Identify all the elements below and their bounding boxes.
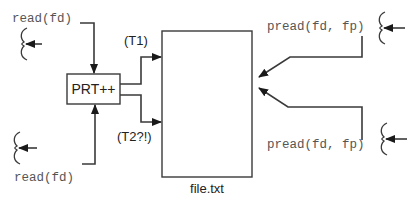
- t1-arrow: [120, 57, 161, 84]
- bottom-right-pread-call: pread(fd, fp): [259, 88, 407, 155]
- bottom-left-arrow: [82, 105, 95, 164]
- bottom-right-arrow: [259, 88, 362, 140]
- top-left-read-call: read(fd): [12, 12, 94, 73]
- prt-label: PRT++: [71, 81, 115, 97]
- t2-arrow: [120, 95, 161, 122]
- t2-label: (T2?!): [117, 129, 152, 144]
- bottom-left-read-label: read(fd): [14, 171, 74, 185]
- t1-label: (T1): [124, 33, 148, 48]
- bottom-left-read-call: read(fd): [14, 105, 95, 185]
- file-label: file.txt: [190, 181, 224, 196]
- top-left-read-label: read(fd): [12, 12, 72, 26]
- t2-branch: (T2?!): [117, 95, 161, 144]
- file-box: file.txt: [162, 31, 252, 196]
- diagram-canvas: file.txt PRT++ read(fd) read(fd) (T1) (T…: [0, 0, 418, 200]
- top-right-pread-call: pread(fd, fp): [259, 12, 405, 77]
- t1-branch: (T1): [120, 33, 161, 84]
- bottom-right-pread-label: pread(fd, fp): [267, 138, 365, 152]
- top-left-arrow: [80, 23, 94, 73]
- prt-box: PRT++: [67, 74, 120, 104]
- file-rect: [162, 31, 252, 177]
- top-right-arrow: [259, 36, 362, 77]
- top-right-pread-label: pread(fd, fp): [267, 20, 365, 34]
